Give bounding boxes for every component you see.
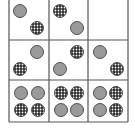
cell-r1-c2 [94,46,124,76]
dotted-circle-icon [55,87,68,100]
cell-r0-c1 [54,5,84,35]
dotted-circle-icon [54,5,67,18]
gray-circle-icon [71,22,84,35]
cell-r1-c0 [14,46,44,76]
puzzle-grid [0,0,135,134]
dotted-circle-icon [32,104,45,117]
dotted-circle-icon [71,87,84,100]
cell-r1-c1 [54,46,84,76]
dotted-circle-icon [14,63,27,76]
gray-circle-icon [94,104,107,117]
gray-circle-icon [14,5,27,18]
cell-r2-c2 [94,87,123,117]
cell-r2-c0 [15,87,45,117]
dotted-circle-icon [110,104,123,117]
cell-r0-c0 [14,5,44,35]
dotted-circle-icon [15,104,28,117]
shapes-layer [14,5,124,117]
dotted-circle-icon [111,63,124,76]
gray-circle-icon [32,87,45,100]
gray-circle-icon [31,46,44,59]
gray-circle-icon [94,87,107,100]
cell-r2-c1 [55,87,84,117]
gray-circle-icon [55,104,68,117]
grid-lines [9,0,128,122]
gray-circle-icon [54,63,67,76]
gray-circle-icon [94,46,107,59]
dotted-circle-icon [31,22,44,35]
dotted-circle-icon [71,46,84,59]
gray-circle-icon [15,87,28,100]
gray-circle-icon [71,104,84,117]
dotted-circle-icon [110,87,123,100]
